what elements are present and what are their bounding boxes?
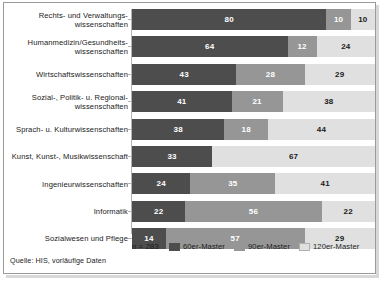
bar-segment: 10 xyxy=(326,9,350,30)
bar-row: Wirtschaftswissenschaften432829 xyxy=(4,64,377,86)
chart-frame: Rechts- und Verwaltungs- wissenschaften8… xyxy=(3,2,376,274)
bar-segment: 24 xyxy=(132,173,190,194)
bar-segment: 64 xyxy=(132,36,288,57)
category-label: Sozial-, Politik- u. Regional- wissensch… xyxy=(8,91,128,113)
bar-row: Rechts- und Verwaltungs- wissenschaften8… xyxy=(4,9,377,31)
bar-segment: 67 xyxy=(212,146,375,167)
stacked-bar: 225622 xyxy=(132,201,375,222)
bar-segment: 10 xyxy=(351,9,375,30)
bar-segment: 18 xyxy=(224,119,268,140)
bar-row: Ingenieurwissenschaften243541 xyxy=(4,173,377,195)
bar-segment: 35 xyxy=(190,173,275,194)
category-label: Ingenieurwissenschaften xyxy=(8,173,128,195)
category-label: Wirtschaftswissenschaften xyxy=(8,64,128,86)
frame-shadow-bottom xyxy=(6,275,378,278)
bar-segment: 22 xyxy=(322,201,375,222)
chart-legend: n = 283 60er-Master 90er-Master 120er-Ma… xyxy=(132,242,368,251)
bar-rows: Rechts- und Verwaltungs- wissenschaften8… xyxy=(4,9,377,256)
category-label: Sprach- u. Kulturwissenschaften xyxy=(8,119,128,141)
bar-segment: 44 xyxy=(268,119,375,140)
legend-swatch-dark-icon xyxy=(169,243,180,251)
bar-segment: 29 xyxy=(305,64,375,85)
stacked-bar: 432829 xyxy=(132,64,375,85)
stacked-bar: 641224 xyxy=(132,36,375,57)
plot-area: Rechts- und Verwaltungs- wissenschaften8… xyxy=(4,3,377,275)
stacked-bar: 412138 xyxy=(132,91,375,112)
bar-row: Humanmedizin/Gesundheits- wissenschaften… xyxy=(4,36,377,58)
bar-segment: 21 xyxy=(232,91,283,112)
legend-label-120er-master: 120er-Master xyxy=(313,242,359,251)
bar-segment: 22 xyxy=(132,201,185,222)
bar-segment: 24 xyxy=(317,36,375,57)
bar-segment: 56 xyxy=(185,201,321,222)
category-label: Kunst, Kunst-, Musikwissenschaft xyxy=(8,146,128,168)
legend-item-60er-master: 60er-Master xyxy=(169,242,225,251)
legend-swatch-medium-icon xyxy=(234,243,245,251)
bar-segment: 41 xyxy=(132,91,232,112)
sample-size-label: n = 283 xyxy=(132,242,159,251)
source-note: Quelle: HIS, vorläufige Daten xyxy=(10,256,106,265)
bar-segment: 12 xyxy=(288,36,317,57)
bar-segment: 80 xyxy=(132,9,326,30)
chart-figure: Rechts- und Verwaltungs- wissenschaften8… xyxy=(0,0,381,281)
bar-segment: 41 xyxy=(275,173,375,194)
stacked-bar: 243541 xyxy=(132,173,375,194)
bar-segment: 43 xyxy=(132,64,236,85)
category-label: Humanmedizin/Gesundheits- wissenschaften xyxy=(8,36,128,58)
bar-row: Sozial-, Politik- u. Regional- wissensch… xyxy=(4,91,377,113)
category-label: Sozialwesen und Pflege xyxy=(8,228,128,250)
category-label: Informatik xyxy=(8,201,128,223)
bar-segment: 38 xyxy=(283,91,375,112)
legend-label-60er-master: 60er-Master xyxy=(183,242,225,251)
stacked-bar: 801010 xyxy=(132,9,375,30)
bar-row: Sprach- u. Kulturwissenschaften381844 xyxy=(4,119,377,141)
stacked-bar: 3367 xyxy=(132,146,375,167)
legend-label-90er-master: 90er-Master xyxy=(248,242,290,251)
category-label: Rechts- und Verwaltungs- wissenschaften xyxy=(8,9,128,31)
bar-row: Kunst, Kunst-, Musikwissenschaft3367 xyxy=(4,146,377,168)
legend-item-120er-master: 120er-Master xyxy=(299,242,359,251)
legend-item-90er-master: 90er-Master xyxy=(234,242,290,251)
bar-segment: 38 xyxy=(132,119,224,140)
bar-row: Informatik225622 xyxy=(4,201,377,223)
bar-segment: 28 xyxy=(236,64,304,85)
legend-swatch-light-icon xyxy=(299,243,310,251)
stacked-bar: 381844 xyxy=(132,119,375,140)
bar-segment: 33 xyxy=(132,146,212,167)
